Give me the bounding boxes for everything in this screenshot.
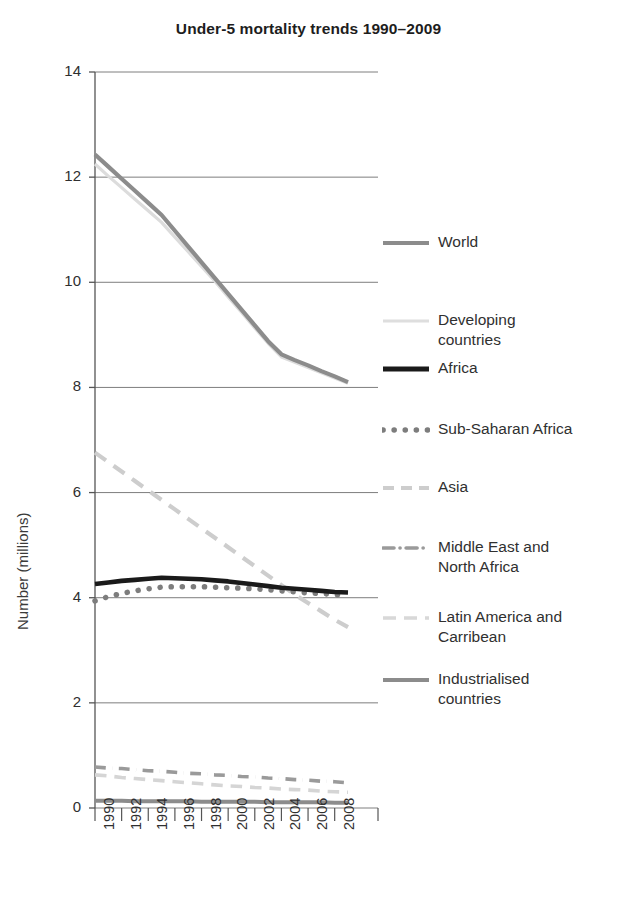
x-tick-label: 2002 (261, 798, 277, 830)
legend-item-label: Industrialised countries (438, 669, 529, 708)
legend-swatch-solid-gray-icon (382, 232, 430, 252)
x-tick-label: 2008 (341, 798, 357, 830)
legend-swatch-solid-black-icon (382, 358, 430, 378)
y-tick-label: 14 (47, 62, 81, 79)
legend-item[interactable]: World (382, 232, 478, 252)
legend-item[interactable]: Middle East and North Africa (382, 537, 549, 576)
legend-item-label: World (438, 232, 478, 252)
y-tick-label: 2 (47, 693, 81, 710)
series-line-middle-east-and-north-africa (95, 767, 348, 783)
legend-swatch-solid-gray-icon (382, 669, 430, 689)
x-tick-label: 1992 (128, 798, 144, 830)
legend-swatch-solid-light-icon (382, 310, 430, 330)
series-line-asia (95, 453, 348, 628)
chart-figure: Under-5 mortality trends 1990–2009 Numbe… (0, 0, 617, 900)
legend-item-label: Asia (438, 477, 468, 497)
legend-item-label: Developing countries (438, 310, 516, 349)
legend-item[interactable]: Latin America and Carribean (382, 607, 562, 646)
series-line-world (95, 155, 348, 383)
series-line-africa (95, 578, 348, 593)
y-tick-label: 10 (47, 272, 81, 289)
x-tick-label: 1994 (154, 798, 170, 830)
y-tick-label: 4 (47, 588, 81, 605)
legend-swatch-dashed-light-icon (382, 477, 430, 497)
x-tick-label: 1990 (101, 798, 117, 830)
x-tick-label: 2004 (287, 798, 303, 830)
x-tick-label: 2000 (234, 798, 250, 830)
legend-item[interactable]: Industrialised countries (382, 669, 529, 708)
legend-swatch-dotted-gray-icon (382, 419, 430, 439)
x-tick-label: 2006 (314, 798, 330, 830)
legend-item-label: Africa (438, 358, 478, 378)
y-tick-label: 12 (47, 167, 81, 184)
legend-item[interactable]: Asia (382, 477, 468, 497)
x-tick-label: 1998 (208, 798, 224, 830)
legend-item-label: Sub-Saharan Africa (438, 419, 572, 439)
legend-item[interactable]: Africa (382, 358, 478, 378)
legend-swatch-dashed-verylight-icon (382, 607, 430, 627)
y-tick-label: 0 (47, 798, 81, 815)
plot-area (0, 0, 617, 900)
y-tick-label: 8 (47, 377, 81, 394)
x-tick-label: 1996 (181, 798, 197, 830)
legend-swatch-dashdot-gray-icon (382, 537, 430, 557)
series-line-latin-america-and-carribean (95, 775, 348, 792)
series-line-developing-countries (95, 164, 348, 383)
legend-item[interactable]: Developing countries (382, 310, 516, 349)
legend-item-label: Latin America and Carribean (438, 607, 562, 646)
legend-item-label: Middle East and North Africa (438, 537, 549, 576)
legend-item[interactable]: Sub-Saharan Africa (382, 419, 572, 439)
y-tick-label: 6 (47, 483, 81, 500)
